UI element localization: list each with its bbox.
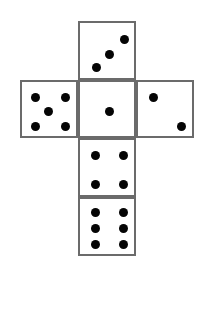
- pip-dot: [91, 151, 100, 160]
- pip-dot: [31, 93, 40, 102]
- right-face: [136, 80, 194, 138]
- center-face: [78, 80, 136, 138]
- dice-net-diagram: [0, 0, 205, 318]
- top-face: [78, 21, 136, 80]
- left-face: [20, 80, 78, 138]
- pip-dot: [105, 107, 114, 116]
- pip-dot: [91, 224, 100, 233]
- pip-dot: [119, 240, 128, 249]
- pip-dot: [120, 35, 129, 44]
- pip-dot: [91, 240, 100, 249]
- pip-dot: [105, 50, 114, 59]
- lower-face: [78, 138, 136, 197]
- pip-dot: [119, 208, 128, 217]
- pip-dot: [149, 93, 158, 102]
- pip-dot: [91, 180, 100, 189]
- pip-dot: [61, 93, 70, 102]
- bottom-face: [78, 197, 136, 256]
- pip-dot: [44, 107, 53, 116]
- pip-dot: [119, 224, 128, 233]
- pip-dot: [92, 63, 101, 72]
- pip-dot: [177, 122, 186, 131]
- pip-dot: [61, 122, 70, 131]
- pip-dot: [119, 151, 128, 160]
- pip-dot: [119, 180, 128, 189]
- pip-dot: [91, 208, 100, 217]
- pip-dot: [31, 122, 40, 131]
